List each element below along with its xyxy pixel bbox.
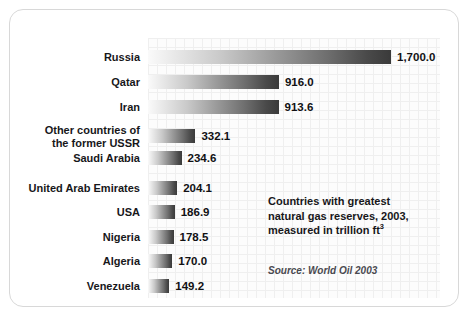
bar-value-label: 913.6 <box>285 100 314 114</box>
bar-label: USA <box>14 206 140 219</box>
bar-label: United Arab Emirates <box>14 182 140 195</box>
bar-label-line: Other countries of <box>14 124 140 137</box>
caption-line-3-text: measured in trillion ft <box>268 224 380 236</box>
bar-label: Nigeria <box>14 231 140 244</box>
bar-label: Qatar <box>14 76 140 89</box>
bar-value-label: 204.1 <box>183 181 212 195</box>
caption-line-3: measured in trillion ft3 <box>268 223 438 238</box>
bar-value-label: 234.6 <box>188 151 217 165</box>
bar <box>148 205 175 219</box>
bar <box>148 230 174 244</box>
bar-value-label: 916.0 <box>285 75 314 89</box>
caption-superscript-3: 3 <box>380 222 384 231</box>
source-note: Source: World Oil 2003 <box>268 265 377 276</box>
caption-line-2: natural gas reserves, 2003, <box>268 209 438 224</box>
bar-label: Venezuela <box>14 280 140 293</box>
bar <box>148 75 279 89</box>
bar <box>148 279 169 293</box>
bar-label: Other countries ofthe former USSR <box>14 124 140 149</box>
bar-value-label: 170.0 <box>178 254 207 268</box>
bar <box>148 100 279 114</box>
chart-page: Russia1,700.0Qatar916.0Iran913.6Other co… <box>0 0 471 320</box>
bar <box>148 181 177 195</box>
bar <box>148 151 182 165</box>
bar-value-label: 332.1 <box>201 129 230 143</box>
bar-label: Saudi Arabia <box>14 152 140 165</box>
bar-value-label: 1,700.0 <box>397 50 435 64</box>
bar-label-line: the former USSR <box>14 137 140 150</box>
chart-caption: Countries with greatest natural gas rese… <box>268 194 438 238</box>
bar-chart: Russia1,700.0Qatar916.0Iran913.6Other co… <box>0 0 471 320</box>
bar-label: Russia <box>14 51 140 64</box>
bar <box>148 50 391 64</box>
bar <box>148 129 195 143</box>
bar-value-label: 186.9 <box>181 205 210 219</box>
bar-value-label: 178.5 <box>180 230 209 244</box>
bar-value-label: 149.2 <box>175 279 204 293</box>
bar-label: Iran <box>14 101 140 114</box>
caption-line-1: Countries with greatest <box>268 194 438 209</box>
bar <box>148 254 172 268</box>
bar-label: Algeria <box>14 255 140 268</box>
